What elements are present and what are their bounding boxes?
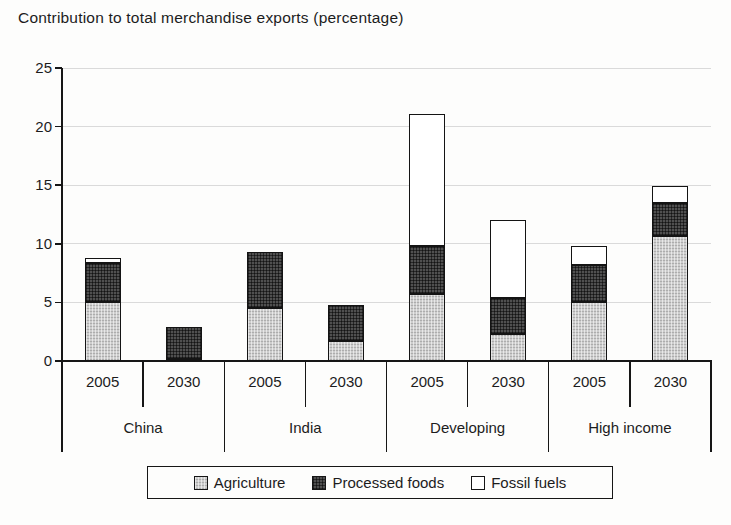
processed-foods-swatch-icon <box>312 476 326 490</box>
gridline <box>62 185 711 186</box>
gridline <box>62 302 711 303</box>
legend-entry-fossil-fuels: Fossil fuels <box>471 474 566 491</box>
y-tick-label: 10 <box>14 235 52 253</box>
year-label: 2030 <box>305 373 386 391</box>
bar-segment-india-2005-agriculture <box>247 308 283 361</box>
year-label: 2005 <box>387 373 468 391</box>
fossil-fuels-swatch-icon <box>471 476 485 490</box>
y-tick-label: 20 <box>14 118 52 136</box>
legend: Agriculture Processed foods Fossil fuels <box>147 466 613 499</box>
gridline <box>62 126 711 127</box>
legend-label-agriculture: Agriculture <box>214 474 286 491</box>
year-label: 2030 <box>468 373 549 391</box>
bar-segment-high-income-2005-processed-foods <box>571 265 607 303</box>
year-label: 2030 <box>630 373 711 391</box>
agriculture-swatch-icon <box>194 476 208 490</box>
gridline <box>62 243 711 244</box>
bar-segment-developing-2005-fossil-fuels <box>409 114 445 246</box>
y-tick-label: 5 <box>14 293 52 311</box>
y-axis-line <box>61 68 63 361</box>
bar-segment-developing-2005-processed-foods <box>409 246 445 294</box>
legend-entry-agriculture: Agriculture <box>194 474 286 491</box>
legend-label-fossil-fuels: Fossil fuels <box>491 474 566 491</box>
gridline <box>62 68 711 69</box>
bar-segment-developing-2030-processed-foods <box>490 298 526 334</box>
bar-segment-china-2005-fossil-fuels <box>85 258 121 263</box>
bar-segment-high-income-2030-processed-foods <box>652 203 688 236</box>
bar-segment-developing-2005-agriculture <box>409 294 445 361</box>
y-tick-label: 15 <box>14 176 52 194</box>
group-label: India <box>224 419 386 437</box>
y-tick-label: 25 <box>14 59 52 77</box>
bar-segment-china-2030-processed-foods <box>166 327 202 359</box>
y-tick-label: 0 <box>14 352 52 370</box>
chart-figure: Contribution to total merchandise export… <box>0 0 731 525</box>
bar-segment-high-income-2005-agriculture <box>571 302 607 361</box>
bar-segment-india-2030-processed-foods <box>328 305 364 341</box>
bar-segment-high-income-2005-fossil-fuels <box>571 246 607 265</box>
bar-segment-india-2030-agriculture <box>328 341 364 361</box>
group-label: High income <box>549 419 711 437</box>
year-label: 2005 <box>224 373 305 391</box>
year-label: 2005 <box>62 373 143 391</box>
group-label: China <box>62 419 224 437</box>
bar-segment-china-2030-agriculture <box>166 359 202 361</box>
year-label: 2005 <box>549 373 630 391</box>
legend-label-processed-foods: Processed foods <box>332 474 444 491</box>
chart-title: Contribution to total merchandise export… <box>18 9 404 27</box>
year-label: 2030 <box>143 373 224 391</box>
bar-segment-developing-2030-agriculture <box>490 334 526 361</box>
bar-segment-china-2005-agriculture <box>85 302 121 361</box>
legend-entry-processed-foods: Processed foods <box>312 474 444 491</box>
bar-segment-high-income-2030-fossil-fuels <box>652 186 688 202</box>
bar-segment-developing-2030-fossil-fuels <box>490 220 526 297</box>
bar-segment-china-2005-processed-foods <box>85 263 121 303</box>
bar-segment-india-2005-processed-foods <box>247 252 283 308</box>
bar-segment-high-income-2030-agriculture <box>652 236 688 361</box>
group-label: Developing <box>387 419 549 437</box>
